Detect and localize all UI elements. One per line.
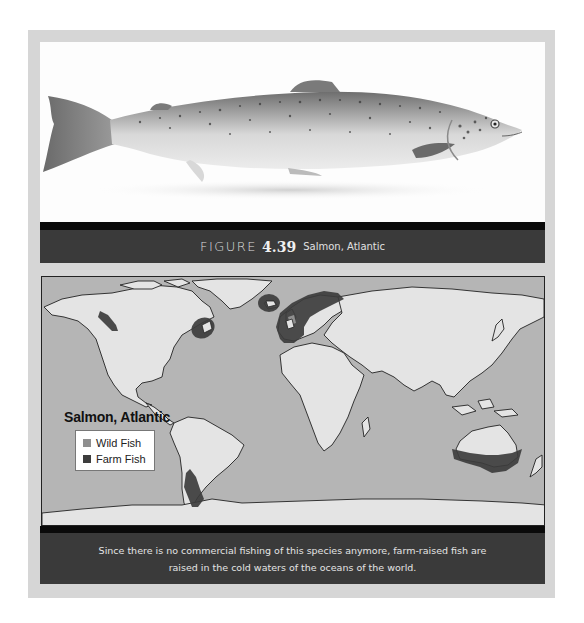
wild-fish-swatch: [83, 439, 91, 447]
figure-title: Salmon, Atlantic: [303, 241, 385, 252]
divider-bar: [40, 526, 545, 533]
map-legend: Wild Fish Farm Fish: [75, 430, 155, 471]
legend-item-farm: Farm Fish: [83, 451, 154, 467]
distribution-map: Salmon, Atlantic Wild Fish Farm Fish: [41, 276, 545, 526]
salmon-photo: [40, 42, 545, 222]
figure-caption: FIGURE 4.39 Salmon, Atlantic: [40, 230, 545, 263]
legend-label: Wild Fish: [96, 437, 141, 449]
salmon-illustration: [40, 42, 545, 222]
figure-number: 4.39: [262, 239, 296, 255]
divider-bar: [40, 222, 545, 230]
figure-label: FIGURE: [200, 239, 257, 254]
legend-label: Farm Fish: [96, 453, 146, 465]
legend-item-wild: Wild Fish: [83, 435, 154, 451]
map-title: Salmon, Atlantic: [64, 409, 170, 425]
caption-line-1: Since there is no commercial fishing of …: [40, 542, 545, 559]
caption-line-2: raised in the cold waters of the oceans …: [40, 559, 545, 576]
farm-fish-swatch: [83, 455, 91, 463]
world-map: [42, 277, 545, 526]
map-caption: Since there is no commercial fishing of …: [40, 533, 545, 584]
